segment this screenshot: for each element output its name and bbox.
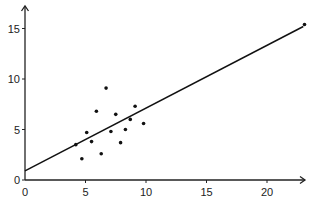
axes: [22, 6, 306, 184]
x-tick-label: 15: [200, 186, 212, 198]
y-tick-label: 15: [8, 23, 20, 35]
data-point: [90, 140, 94, 144]
y-tick-label: 0: [14, 174, 20, 186]
data-point: [114, 113, 118, 117]
data-point: [124, 128, 128, 132]
x-tick-label: 0: [22, 186, 28, 198]
y-tick-label: 5: [14, 124, 20, 136]
data-point: [104, 86, 108, 90]
data-point: [109, 130, 113, 134]
data-point: [119, 141, 123, 145]
data-point: [303, 23, 307, 27]
scatter-chart: 05101520051015: [0, 0, 313, 211]
x-tick-label: 20: [261, 186, 273, 198]
regression-line: [25, 26, 303, 170]
fit-line: [25, 26, 303, 170]
data-point: [74, 143, 78, 147]
data-point: [142, 122, 146, 126]
data-point: [95, 110, 99, 114]
data-point: [128, 118, 132, 122]
y-tick-label: 10: [8, 73, 20, 85]
data-point: [133, 104, 137, 108]
data-point: [80, 157, 84, 161]
data-point: [85, 131, 89, 135]
data-point: [99, 152, 103, 156]
x-tick-label: 10: [140, 186, 152, 198]
x-tick-label: 5: [82, 186, 88, 198]
